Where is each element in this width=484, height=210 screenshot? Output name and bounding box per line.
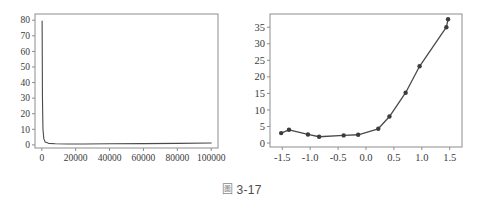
x-tick-label: 0.0 [359, 152, 372, 163]
y-tick-label: 70 [21, 31, 31, 41]
x-tick-label: -1.0 [302, 152, 319, 163]
left-chart-svg: 0102030405060708002000040000600008000010… [0, 0, 242, 178]
y-tick-label: 80 [21, 15, 31, 25]
data-point-marker [287, 128, 291, 132]
y-tick-label: 30 [21, 93, 31, 103]
x-tick-label: 80000 [165, 153, 189, 163]
x-tick-label: 1.5 [443, 152, 456, 163]
y-tick-label: 30 [255, 38, 266, 49]
data-point-marker [403, 91, 407, 95]
y-tick-label: 20 [255, 71, 266, 82]
y-tick-label: 40 [21, 78, 31, 88]
series-line [281, 19, 448, 136]
x-tick-label: 0.5 [387, 152, 400, 163]
data-point-marker [317, 135, 321, 139]
figure-caption: 圖3-17 [0, 180, 484, 197]
right-chart-svg: 05101520253035-1.5-1.0-0.50.00.51.01.5 [242, 0, 484, 178]
x-tick-label: 20000 [64, 153, 88, 163]
y-tick-label: 60 [21, 47, 31, 57]
right-chart-plot-area: 05101520253035-1.5-1.0-0.50.00.51.01.5 [255, 14, 463, 163]
y-tick-label: 25 [255, 55, 266, 66]
y-tick-label: 20 [21, 109, 31, 119]
data-point-marker [376, 127, 380, 131]
data-point-marker [417, 64, 421, 68]
plot-frame [35, 14, 218, 148]
data-point-marker [446, 17, 450, 21]
x-tick-label: -1.5 [274, 152, 291, 163]
y-tick-label: 10 [255, 105, 266, 116]
x-tick-label: 0 [39, 153, 44, 163]
cjk-figure-character-icon: 圖 [222, 180, 233, 196]
y-tick-label: 50 [21, 62, 31, 72]
data-point-marker [356, 133, 360, 137]
y-tick-label: 0 [25, 140, 30, 150]
x-tick-label: -0.5 [330, 152, 347, 163]
chart-panel-left: 0102030405060708002000040000600008000010… [0, 0, 242, 178]
data-point-marker [279, 131, 283, 135]
x-tick-label: 40000 [98, 153, 122, 163]
data-point-marker [444, 25, 448, 29]
chart-panel-right: 05101520253035-1.5-1.0-0.50.00.51.01.5 [242, 0, 484, 178]
chart-panels: 0102030405060708002000040000600008000010… [0, 0, 484, 178]
y-tick-label: 35 [255, 22, 266, 33]
x-tick-label: 1.0 [415, 152, 428, 163]
y-tick-label: 5 [260, 121, 265, 132]
y-tick-label: 0 [260, 138, 265, 149]
data-point-marker [341, 133, 345, 137]
figure-container: 0102030405060708002000040000600008000010… [0, 0, 484, 210]
y-tick-label: 10 [21, 125, 31, 135]
data-point-marker [387, 114, 391, 118]
left-chart-plot-area: 0102030405060708002000040000600008000010… [21, 14, 226, 163]
x-tick-label: 60000 [132, 153, 156, 163]
data-point-marker [306, 132, 310, 136]
series-line [42, 21, 211, 144]
y-tick-label: 15 [255, 88, 266, 99]
plot-frame [270, 14, 462, 147]
x-tick-label: 100000 [197, 153, 226, 163]
figure-caption-number: 3-17 [237, 183, 262, 197]
